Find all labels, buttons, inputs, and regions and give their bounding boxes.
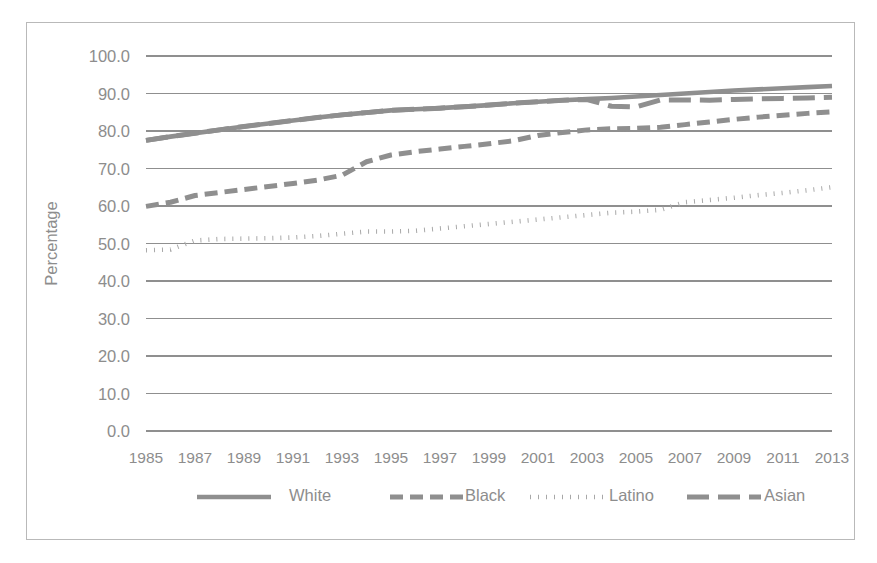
y-axis-tick-label: 40.0 (98, 272, 130, 290)
line-chart: 100.090.080.070.060.050.040.030.020.010.… (27, 23, 856, 541)
x-axis-tick-label: 1999 (472, 449, 506, 466)
y-axis-tick-label: 20.0 (98, 347, 130, 365)
y-axis-tick-label: 90.0 (98, 85, 130, 103)
legend-label-white[interactable]: White (289, 486, 331, 504)
x-axis-tick-label: 2003 (570, 449, 604, 466)
y-axis-tick-label: 10.0 (98, 385, 130, 403)
x-axis-tick-label: 1989 (227, 449, 261, 466)
legend-label-black[interactable]: Black (465, 486, 506, 504)
x-axis-tick-label: 2011 (766, 449, 799, 466)
y-axis-tick-label: 0.0 (107, 422, 130, 440)
y-axis-tick-label: 30.0 (98, 310, 130, 328)
x-axis-tick-labels: 1985198719891991199319951997199920012003… (129, 449, 849, 466)
x-axis-tick-label: 1985 (129, 449, 163, 466)
y-axis-tick-label: 80.0 (98, 122, 130, 140)
chart-plot-area: 100.090.080.070.060.050.040.030.020.010.… (27, 23, 856, 541)
chart-figure: 100.090.080.070.060.050.040.030.020.010.… (26, 22, 855, 540)
x-axis-tick-label: 1993 (325, 449, 359, 466)
y-axis-tick-label: 70.0 (98, 160, 130, 178)
y-axis-tick-label: 50.0 (98, 235, 130, 253)
series-line-latino (146, 187, 832, 250)
x-axis-tick-label: 2007 (668, 449, 702, 466)
legend-label-latino[interactable]: Latino (609, 486, 654, 504)
chart-legend: WhiteBlackLatinoAsian (197, 486, 805, 504)
y-axis-tick-label: 100.0 (89, 47, 130, 65)
x-axis-tick-label: 1997 (423, 449, 457, 466)
x-axis-tick-label: 1991 (276, 449, 310, 466)
series-line-white (146, 86, 832, 140)
x-axis-tick-label: 2005 (619, 449, 653, 466)
x-axis-tick-label: 2013 (815, 449, 849, 466)
legend-label-asian[interactable]: Asian (764, 486, 805, 504)
x-axis-tick-label: 2001 (521, 449, 555, 466)
y-axis-title: Percentage (42, 201, 60, 285)
x-axis-tick-label: 2009 (717, 449, 751, 466)
x-axis-tick-label: 1995 (374, 449, 408, 466)
y-axis-tick-label: 60.0 (98, 197, 130, 215)
x-axis-tick-label: 1987 (178, 449, 212, 466)
